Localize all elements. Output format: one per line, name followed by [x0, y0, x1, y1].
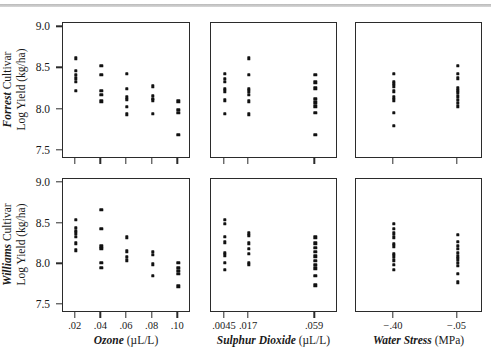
data-point — [392, 254, 395, 257]
data-point — [392, 245, 395, 248]
x-axis-title-water-stress: Water Stress (MPa) — [373, 334, 464, 346]
data-point — [392, 72, 395, 75]
data-point — [100, 93, 103, 96]
data-point — [456, 247, 459, 250]
data-point — [223, 112, 226, 115]
data-point — [392, 263, 395, 266]
data-point — [456, 264, 459, 267]
plot-area — [211, 23, 336, 157]
data-point — [176, 133, 179, 136]
panel-forrest-water-stress — [355, 22, 482, 158]
y-axis-tick — [56, 222, 62, 223]
x-axis-tick — [151, 312, 152, 318]
data-point — [456, 77, 459, 80]
data-point — [313, 246, 316, 249]
y-axis-tick — [56, 181, 62, 182]
data-point — [247, 252, 250, 255]
row-label-williams: Williams CultivarLog Yield (kg/ha) — [1, 170, 28, 320]
data-point — [313, 111, 316, 114]
data-point — [223, 218, 226, 221]
data-point — [392, 99, 395, 102]
panel-forrest-ozone — [62, 22, 190, 158]
data-point — [392, 227, 395, 230]
data-point — [313, 81, 316, 84]
panel-williams-sulphur-dioxide — [210, 178, 337, 312]
panel-williams-water-stress — [355, 178, 482, 312]
data-point — [456, 233, 459, 236]
data-point — [74, 69, 77, 72]
data-point — [392, 222, 395, 225]
data-point — [74, 241, 77, 244]
x-axis-tick-label: .06 — [119, 320, 132, 331]
data-point — [100, 227, 103, 230]
x-axis-tick-label: −.40 — [384, 320, 403, 331]
plot-area — [356, 23, 481, 157]
data-point — [313, 284, 316, 287]
data-point — [100, 247, 103, 250]
x-axis-tick — [176, 158, 177, 164]
data-point — [176, 261, 179, 264]
data-point — [151, 99, 154, 102]
data-point — [223, 90, 226, 93]
x-axis-tick — [74, 312, 75, 318]
x-axis-tick — [176, 312, 177, 318]
panel-williams-ozone — [62, 178, 190, 312]
data-point — [223, 80, 226, 83]
data-point — [100, 208, 103, 211]
data-point — [74, 57, 77, 60]
x-axis-tick — [151, 158, 152, 164]
data-point — [125, 250, 128, 253]
data-point — [74, 218, 77, 221]
data-point — [247, 73, 250, 76]
data-point — [223, 72, 226, 75]
data-point — [151, 263, 154, 266]
data-point — [151, 274, 154, 277]
data-point — [392, 111, 395, 114]
data-point — [125, 87, 128, 90]
x-axis-title-sulphur-dioxide: Sulphur Dioxide (µL/L) — [217, 334, 330, 346]
x-axis-tick — [313, 158, 314, 164]
data-point — [176, 284, 179, 287]
x-axis-tick — [456, 158, 457, 164]
data-point — [100, 261, 103, 264]
row-label-forrest: Forrest CultivarLog Yield (kg/ha) — [1, 15, 28, 165]
x-axis-tick — [313, 312, 314, 318]
data-point — [247, 241, 250, 244]
scatter-matrix-figure: 9.08.58.07.59.08.58.07.5.02.04.06.08.10O… — [0, 0, 491, 359]
x-axis-tick — [100, 312, 101, 318]
data-point — [247, 57, 250, 60]
panel-forrest-sulphur-dioxide — [210, 22, 337, 158]
x-axis-tick — [74, 158, 75, 164]
y-axis-tick — [56, 67, 62, 68]
data-point — [151, 85, 154, 88]
data-point — [392, 90, 395, 93]
data-point — [313, 259, 316, 262]
x-axis-tick-label: .0045 — [212, 320, 236, 331]
data-point — [392, 232, 395, 235]
data-point — [100, 73, 103, 76]
data-point — [223, 254, 226, 257]
data-point — [313, 100, 316, 103]
data-point — [223, 261, 226, 264]
plot-area — [356, 179, 481, 311]
data-point — [313, 105, 316, 108]
data-point — [74, 235, 77, 238]
data-point — [247, 263, 250, 266]
data-point — [392, 124, 395, 127]
data-point — [74, 80, 77, 83]
x-axis-tick — [392, 158, 393, 164]
x-axis-tick-label: .04 — [94, 320, 107, 331]
x-axis-tick — [223, 312, 224, 318]
x-axis-tick — [125, 158, 126, 164]
x-axis-tick — [392, 312, 393, 318]
data-point — [456, 240, 459, 243]
data-point — [392, 85, 395, 88]
plot-area — [63, 23, 189, 157]
data-point — [125, 236, 128, 239]
data-point — [74, 249, 77, 252]
y-axis-tick — [56, 149, 62, 150]
data-point — [125, 259, 128, 262]
x-axis-tick — [456, 312, 457, 318]
data-point — [223, 235, 226, 238]
data-point — [100, 100, 103, 103]
